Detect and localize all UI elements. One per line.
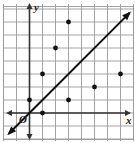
data-point — [53, 46, 58, 51]
y-axis-label: y — [34, 2, 39, 13]
x-axis-arrow-left-icon — [6, 110, 12, 116]
data-point — [92, 85, 97, 90]
data-point — [40, 111, 45, 116]
data-point — [66, 20, 71, 25]
data-point — [118, 72, 123, 77]
data-point — [27, 98, 32, 103]
x-axis-label: x — [126, 115, 132, 126]
origin-label: O — [19, 114, 27, 125]
data-point — [40, 72, 45, 77]
data-point — [66, 98, 71, 103]
y-axis-arrow-icon — [27, 3, 33, 9]
